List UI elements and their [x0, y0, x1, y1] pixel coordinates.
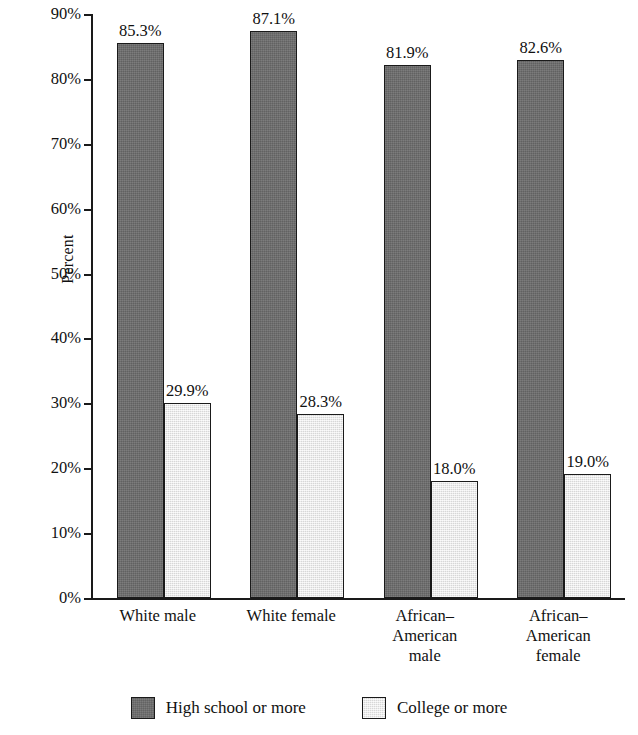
bar-group: 85.3%29.9%: [117, 14, 211, 598]
bar-group: 82.6%19.0%: [517, 14, 611, 598]
y-tick-label: 60%: [51, 199, 81, 219]
bar-value-label: 87.1%: [252, 9, 295, 29]
legend-swatch-light: [362, 697, 386, 719]
y-tick-label: 0%: [59, 588, 81, 608]
bar[interactable]: 19.0%: [564, 474, 611, 598]
legend-label: College or more: [397, 698, 507, 718]
bar-value-label: 82.6%: [519, 38, 562, 58]
x-axis-label: African–Americanfemale: [492, 606, 626, 666]
x-axis-label: White male: [91, 606, 225, 626]
y-tick-mark: [84, 209, 93, 211]
bar-group: 81.9%18.0%: [384, 14, 478, 598]
bar-value-label: 85.3%: [119, 21, 162, 41]
x-axis-label-line: African–: [358, 606, 492, 626]
bar[interactable]: 29.9%: [164, 403, 211, 598]
y-tick-label: 70%: [51, 134, 81, 154]
x-axis-label-line: African–: [492, 606, 626, 626]
y-tick-label: 80%: [51, 69, 81, 89]
y-tick-mark: [84, 14, 93, 16]
legend-item[interactable]: College or more: [362, 697, 507, 719]
x-axis-category-labels: White maleWhite femaleAfrican–Americanma…: [91, 606, 625, 686]
bar-value-label: 28.3%: [299, 392, 342, 412]
bar[interactable]: 81.9%: [384, 65, 431, 598]
y-tick-mark: [84, 79, 93, 81]
legend-swatch-dark: [131, 697, 155, 719]
x-axis-label-line: female: [492, 646, 626, 666]
bar-value-label: 18.0%: [433, 459, 476, 479]
y-tick-label: 40%: [51, 328, 81, 348]
bar[interactable]: 82.6%: [517, 60, 564, 598]
x-axis-label-line: American: [358, 626, 492, 646]
bar[interactable]: 18.0%: [431, 481, 478, 598]
x-axis-label-line: White male: [91, 606, 225, 626]
y-tick-label: 10%: [51, 523, 81, 543]
y-tick-mark: [84, 468, 93, 470]
x-axis-label: White female: [225, 606, 359, 626]
legend-item[interactable]: High school or more: [131, 697, 306, 719]
y-tick-mark: [84, 144, 93, 146]
bar-group: 87.1%28.3%: [250, 14, 344, 598]
bar-value-label: 29.9%: [166, 381, 209, 401]
x-axis-label-line: American: [492, 626, 626, 646]
bar[interactable]: 28.3%: [297, 414, 344, 598]
bar-value-label: 81.9%: [386, 43, 429, 63]
bar-value-label: 19.0%: [566, 452, 609, 472]
y-tick-mark: [84, 403, 93, 405]
y-tick-mark: [84, 533, 93, 535]
y-tick-label: 50%: [51, 264, 81, 284]
chart-legend: High school or moreCollege or more: [0, 697, 638, 719]
plot-area: 0%10%20%30%40%50%60%70%80%90% 85.3%29.9%…: [91, 14, 625, 600]
y-tick-label: 90%: [51, 4, 81, 24]
x-axis-label-line: White female: [225, 606, 359, 626]
bar[interactable]: 85.3%: [117, 43, 164, 598]
y-tick-mark: [84, 274, 93, 276]
bars-layer: 85.3%29.9%87.1%28.3%81.9%18.0%82.6%19.0%: [93, 14, 625, 598]
bar-chart: Percent 0%10%20%30%40%50%60%70%80%90% 85…: [0, 0, 638, 735]
y-tick-mark: [84, 338, 93, 340]
legend-label: High school or more: [166, 698, 306, 718]
x-axis-label: African–Americanmale: [358, 606, 492, 666]
y-tick-mark: [84, 598, 93, 600]
x-axis-label-line: male: [358, 646, 492, 666]
y-tick-label: 20%: [51, 458, 81, 478]
bar[interactable]: 87.1%: [250, 31, 297, 598]
y-tick-label: 30%: [51, 393, 81, 413]
